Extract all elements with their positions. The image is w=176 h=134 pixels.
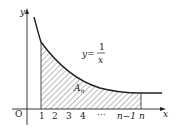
diagram-canvas: y x O y= 1 x An 1 2 3 4 ··· n−1 n bbox=[0, 0, 176, 134]
function-numerator: 1 bbox=[99, 42, 105, 52]
function-label-lhs: y= bbox=[81, 49, 95, 59]
x-tick-n-minus-1: n−1 bbox=[117, 111, 136, 121]
function-denominator: x bbox=[98, 55, 103, 65]
x-tick-n: n bbox=[139, 111, 145, 121]
origin-label: O bbox=[15, 109, 22, 119]
x-axis-label: x bbox=[163, 109, 168, 119]
diagram-area-under-curve: y x O y= 1 x An 1 2 3 4 ··· n−1 n bbox=[0, 0, 176, 134]
y-axis-label: y bbox=[19, 7, 26, 17]
x-tick-1: 1 bbox=[39, 111, 45, 121]
y-axis-arrow-icon bbox=[25, 8, 29, 14]
x-tick-4: 4 bbox=[80, 111, 86, 121]
x-tick-2: 2 bbox=[52, 111, 58, 121]
x-tick-3: 3 bbox=[66, 111, 72, 121]
x-tick-ellipsis: ··· bbox=[97, 110, 106, 120]
